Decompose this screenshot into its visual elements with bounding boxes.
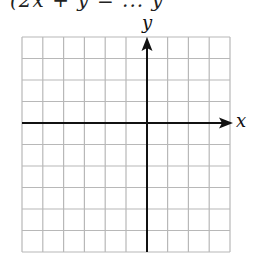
y-axis-label: y — [142, 14, 152, 32]
grid-lines — [22, 37, 230, 252]
coordinate-grid — [0, 0, 257, 260]
x-axis-label: x — [236, 112, 246, 130]
